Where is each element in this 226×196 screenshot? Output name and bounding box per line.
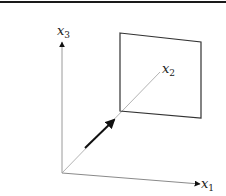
x3-sub: 3 [64, 30, 70, 40]
plane [120, 33, 201, 118]
x1-sub: 1 [208, 183, 214, 193]
x2-axis-label: x2 [162, 62, 175, 78]
vector-arrow [85, 120, 114, 148]
diagram-canvas [0, 0, 226, 196]
x3-axis-label: x3 [57, 24, 70, 40]
x2-sub: 2 [169, 68, 175, 78]
x1-axis [62, 173, 200, 184]
x1-axis-label: x1 [201, 177, 214, 193]
